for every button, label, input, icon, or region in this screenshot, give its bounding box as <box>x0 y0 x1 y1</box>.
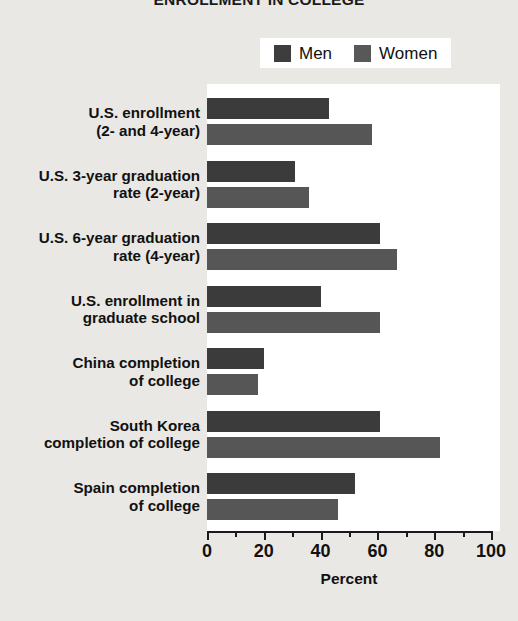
x-tick-minor <box>463 531 465 537</box>
bar-group <box>207 348 500 395</box>
category-label-line: rate (4-year) <box>8 247 200 265</box>
chart-legend: Men Women <box>260 38 451 68</box>
legend-item-women[interactable]: Women <box>354 45 437 62</box>
category-label-line: of college <box>8 372 200 390</box>
category-label-line: Spain completion <box>8 479 200 497</box>
bar-women[interactable] <box>207 249 397 270</box>
x-tick-major <box>321 531 323 540</box>
bar-women[interactable] <box>207 374 258 395</box>
x-tick-minor <box>406 531 408 537</box>
legend-item-men[interactable]: Men <box>274 45 332 62</box>
bar-group <box>207 223 500 270</box>
legend-label-women: Women <box>379 45 437 62</box>
bar-group <box>207 286 500 333</box>
category-label-line: U.S. 3-year graduation <box>8 167 200 185</box>
category-label-line: (2- and 4-year) <box>8 122 200 140</box>
category-label-line: graduate school <box>8 309 200 327</box>
bar-women[interactable] <box>207 124 372 145</box>
category-label-line: U.S. enrollment <box>8 104 200 122</box>
category-label: Spain completionof college <box>8 479 200 514</box>
x-tick-label: 60 <box>367 541 387 562</box>
bar-men[interactable] <box>207 411 380 432</box>
x-tick-major <box>491 531 493 540</box>
x-tick-major <box>377 531 379 540</box>
bar-men[interactable] <box>207 348 264 369</box>
category-label: U.S. enrollment ingraduate school <box>8 292 200 327</box>
category-label-line: U.S. 6-year graduation <box>8 229 200 247</box>
category-label: U.S. 6-year graduationrate (4-year) <box>8 229 200 264</box>
category-label-line: rate (2-year) <box>8 184 200 202</box>
bar-women[interactable] <box>207 437 440 458</box>
category-label: China completionof college <box>8 354 200 389</box>
category-label-line: China completion <box>8 354 200 372</box>
x-tick-minor <box>235 531 237 537</box>
category-label-line: of college <box>8 497 200 515</box>
x-tick-label: 0 <box>202 541 212 562</box>
x-tick-label: 20 <box>254 541 274 562</box>
x-tick-label: 80 <box>424 541 444 562</box>
bar-men[interactable] <box>207 286 321 307</box>
bar-women[interactable] <box>207 187 309 208</box>
category-label: U.S. 3-year graduationrate (2-year) <box>8 167 200 202</box>
x-tick-label: 40 <box>311 541 331 562</box>
chart-figure: ENROLLMENT IN COLLEGE Men Women U.S. enr… <box>0 0 518 621</box>
category-label-line: South Korea <box>8 417 200 435</box>
legend-label-men: Men <box>299 45 332 62</box>
x-tick-minor <box>292 531 294 537</box>
bar-group <box>207 473 500 520</box>
category-label: U.S. enrollment(2- and 4-year) <box>8 104 200 139</box>
x-tick-label: 100 <box>476 541 506 562</box>
x-tick-major <box>207 531 209 540</box>
bar-men[interactable] <box>207 161 295 182</box>
bar-men[interactable] <box>207 223 380 244</box>
x-tick-major <box>264 531 266 540</box>
legend-swatch-women-icon <box>354 45 371 62</box>
category-label-line: completion of college <box>8 434 200 452</box>
bar-men[interactable] <box>207 473 355 494</box>
bar-group <box>207 161 500 208</box>
x-axis-title: Percent <box>207 570 491 588</box>
category-label: South Koreacompletion of college <box>8 417 200 452</box>
x-tick-minor <box>349 531 351 537</box>
plot-area <box>207 84 500 531</box>
x-tick-major <box>434 531 436 540</box>
bar-women[interactable] <box>207 312 380 333</box>
category-label-line: U.S. enrollment in <box>8 292 200 310</box>
bar-group <box>207 411 500 458</box>
bar-men[interactable] <box>207 98 329 119</box>
bar-women[interactable] <box>207 499 338 520</box>
legend-swatch-men-icon <box>274 45 291 62</box>
chart-title: ENROLLMENT IN COLLEGE <box>0 0 518 9</box>
bar-group <box>207 98 500 145</box>
